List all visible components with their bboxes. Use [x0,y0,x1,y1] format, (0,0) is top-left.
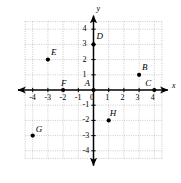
y-tick-label: -3 [83,132,90,140]
data-point-d [91,42,95,46]
x-tick-label: -2 [60,94,67,102]
point-label-g: G [36,125,43,134]
y-tick-label: -2 [83,116,90,124]
point-label-e: E [51,48,57,57]
y-axis-label: y [97,5,101,13]
y-tick-label: -4 [83,147,90,155]
x-tick-label: -3 [44,94,51,102]
y-tick-label: 4 [83,25,87,33]
data-point-c [152,88,156,92]
x-tick-label: -4 [29,94,36,102]
data-point-h [107,118,111,122]
coordinate-plane-figure: -4-3-2-101234-4-3-2-11234xyABCDEFGH [0,0,181,183]
x-axis-label: x [172,82,176,90]
data-point-g [31,134,35,138]
x-tick-label: 1 [105,94,109,102]
x-tick-label: 2 [120,94,124,102]
data-point-a [91,88,95,92]
point-label-f: F [61,79,67,88]
data-point-b [137,73,141,77]
y-tick-label: -1 [83,101,90,109]
x-tick-label: 0 [90,94,94,102]
x-tick-label: 3 [136,94,140,102]
x-tick-label: -1 [75,94,82,102]
y-tick-label: 2 [83,56,87,64]
x-tick-label: 4 [151,94,155,102]
data-point-e [46,58,50,62]
point-label-b: B [142,63,148,72]
point-label-a: A [85,79,91,88]
data-point-f [61,88,65,92]
coordinate-plane-canvas [0,0,181,183]
point-label-c: C [145,79,151,88]
y-tick-label: 3 [83,40,87,48]
point-label-h: H [110,109,117,118]
point-label-d: D [97,32,104,41]
